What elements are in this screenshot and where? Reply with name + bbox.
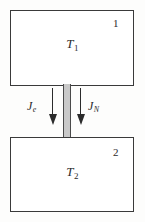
flux-label-particle: JN — [88, 99, 99, 114]
flux-arrow-right-icon — [76, 88, 85, 126]
arrow-shaft — [80, 88, 81, 116]
flux-symbol-left: J — [27, 99, 32, 113]
temperature-subscript-bottom: 2 — [74, 171, 79, 181]
connecting-channel — [63, 84, 71, 139]
arrow-head — [49, 114, 57, 125]
temperature-symbol-bottom: T — [66, 164, 73, 179]
flux-subscript-left: e — [33, 105, 37, 114]
flux-subscript-right: N — [94, 105, 99, 114]
temperature-label-bottom: T2 — [0, 164, 145, 181]
arrow-head — [77, 114, 85, 125]
arrow-shaft — [52, 88, 53, 116]
temperature-symbol-top: T — [66, 36, 73, 51]
reservoir-index-top: 1 — [113, 17, 119, 29]
flux-arrow-left-icon — [48, 88, 57, 126]
reservoir-index-bottom: 2 — [113, 146, 119, 158]
temperature-label-top: T1 — [0, 36, 145, 53]
temperature-subscript-top: 1 — [74, 43, 79, 53]
flux-label-energy: Je — [27, 99, 36, 114]
flux-symbol-right: J — [88, 99, 93, 113]
flux-diagram: T1 1 Je JN T2 2 — [0, 0, 145, 222]
